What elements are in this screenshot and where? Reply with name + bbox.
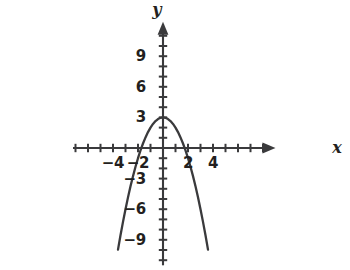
x-tick-label: 2: [183, 156, 193, 171]
graph-figure: −4−224963−3−6−9 x y: [0, 0, 350, 270]
x-tick-label: −4: [102, 156, 125, 171]
x-tick-label: 4: [208, 156, 218, 171]
y-tick-label: 3: [136, 110, 146, 125]
y-tick-label: −6: [123, 202, 146, 217]
y-tick-label: −3: [123, 171, 146, 186]
x-axis-label: x: [332, 140, 342, 156]
y-tick-label: −9: [123, 232, 146, 247]
axis-arrowheads: [158, 22, 276, 154]
y-axis-label: y: [152, 2, 161, 18]
y-tick-label: 6: [136, 79, 146, 94]
y-tick-label: 9: [136, 49, 146, 64]
coordinate-plane-svg: [0, 0, 350, 270]
axis-lines: [73, 26, 272, 266]
